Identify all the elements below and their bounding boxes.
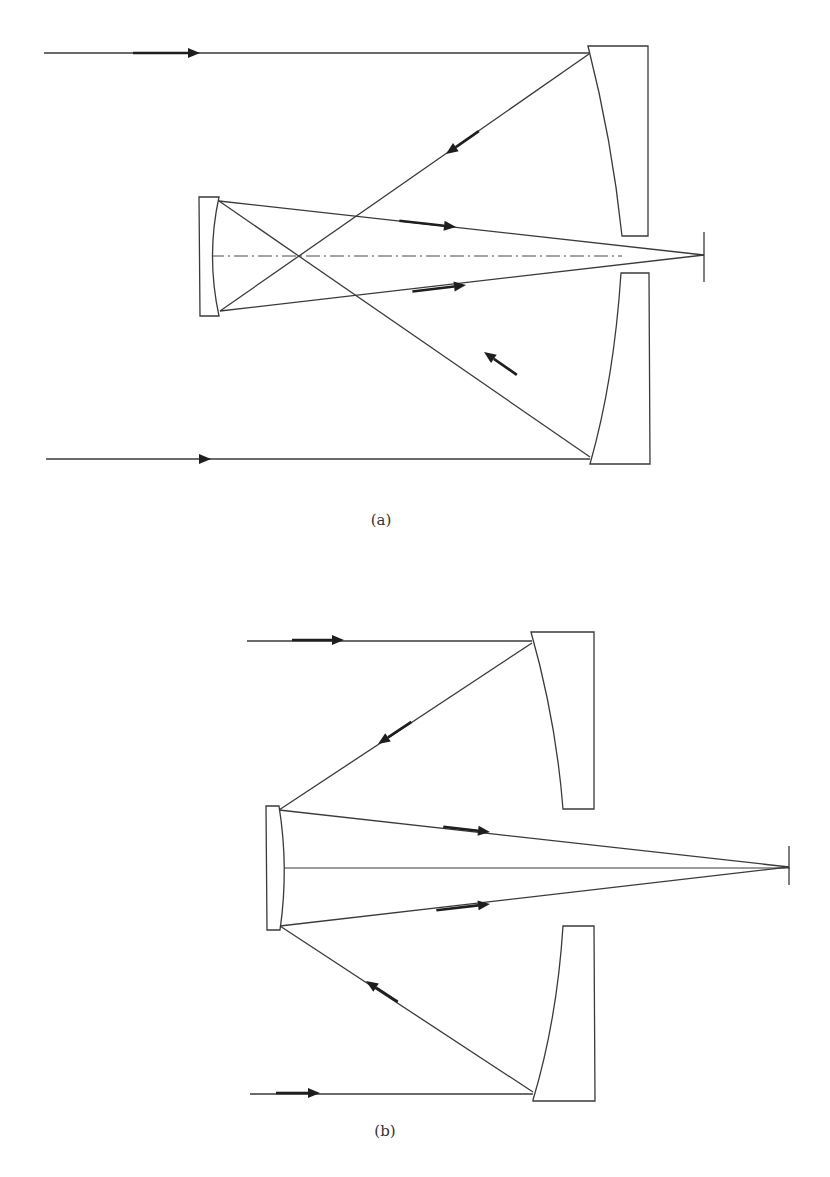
direction-arrow-icon xyxy=(332,635,344,645)
direction-arrow-icon xyxy=(484,352,497,363)
panel-a-cassegrain-layout xyxy=(44,46,704,464)
direction-arrow-icon xyxy=(199,454,211,464)
optical-diagram-canvas xyxy=(0,0,830,1177)
arrow-shaft xyxy=(376,988,398,1002)
direction-arrow-icon xyxy=(478,826,490,836)
light-ray xyxy=(279,810,789,867)
direction-arrow-icon xyxy=(188,48,200,58)
light-ray xyxy=(220,54,589,311)
secondary-mirror xyxy=(266,806,284,930)
light-ray xyxy=(219,201,590,457)
arrow-shaft xyxy=(436,905,478,910)
direction-arrow-icon xyxy=(378,733,391,744)
arrow-shaft xyxy=(388,722,411,737)
arrow-shaft xyxy=(494,359,517,375)
panel-a-caption: (a) xyxy=(371,511,392,529)
arrow-shaft xyxy=(412,286,454,291)
primary-mirror-lower xyxy=(590,273,650,464)
primary-mirror-upper xyxy=(531,632,594,809)
arrow-shaft xyxy=(456,131,479,147)
light-ray xyxy=(280,867,789,926)
direction-arrow-icon xyxy=(444,221,456,231)
light-ray xyxy=(280,926,533,1092)
direction-arrow-icon xyxy=(308,1088,320,1098)
arrow-shaft xyxy=(399,221,444,226)
panel-b-caption: (b) xyxy=(374,1122,395,1140)
primary-mirror-upper xyxy=(588,46,648,236)
panel-b-cassegrain-layout xyxy=(247,632,790,1101)
direction-arrow-icon xyxy=(446,143,459,154)
primary-mirror-lower xyxy=(533,926,595,1101)
